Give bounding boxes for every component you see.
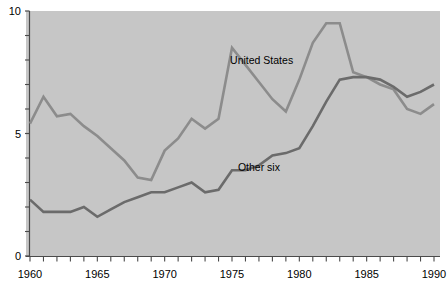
x-axis-tick-label: 1970: [152, 268, 176, 280]
x-axis-tick-label: 1975: [220, 268, 244, 280]
y-axis-tick-label: 5: [15, 128, 21, 140]
x-axis-tick-label: 1990: [422, 268, 446, 280]
y-axis-tick-label: 0: [15, 250, 21, 262]
x-axis-tick-label: 1985: [354, 268, 378, 280]
x-axis-tick-label: 1980: [287, 268, 311, 280]
line-chart: 05101960196519701975198019851990United S…: [0, 0, 448, 286]
y-axis-tick-label: 10: [9, 5, 21, 17]
series-annotation: Other six: [238, 161, 281, 173]
series-annotation: United States: [230, 54, 293, 66]
x-axis-tick-label: 1960: [18, 268, 42, 280]
chart-figure: 05101960196519701975198019851990United S…: [0, 0, 448, 286]
x-axis-tick-label: 1965: [85, 268, 109, 280]
